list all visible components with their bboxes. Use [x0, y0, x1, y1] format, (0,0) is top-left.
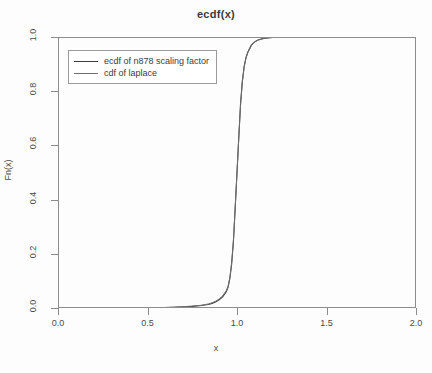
legend-item-label: ecdf of n878 scaling factor — [104, 56, 209, 67]
chart-title: ecdf(x) — [0, 8, 432, 20]
x-tick-label: 0.5 — [131, 318, 165, 328]
y-tick-label-text: 0.6 — [28, 130, 38, 156]
legend-item-laplace: cdf of laplace — [74, 67, 209, 79]
y-axis-label: Fn(x) — [0, 165, 38, 179]
y-tick-label-text: 0.2 — [28, 239, 38, 265]
x-tick-label: 0.0 — [41, 318, 75, 328]
x-tick-mark — [327, 308, 328, 315]
y-tick-mark — [51, 145, 58, 146]
x-tick-label: 1.0 — [220, 318, 254, 328]
legend-item-ecdf: ecdf of n878 scaling factor — [74, 55, 209, 67]
y-tick-label: 0.6 — [20, 138, 46, 152]
y-tick-label: 0.4 — [20, 193, 46, 207]
legend-line-icon — [74, 68, 98, 78]
y-tick-mark — [51, 308, 58, 309]
y-tick-mark — [51, 37, 58, 38]
y-tick-label: 0.0 — [20, 301, 46, 315]
x-tick-mark — [416, 308, 417, 315]
y-tick-label: 0.8 — [20, 84, 46, 98]
legend-item-label: cdf of laplace — [104, 68, 157, 79]
y-tick-label-text: 0.8 — [28, 76, 38, 102]
x-axis-label: x — [0, 343, 432, 353]
y-tick-label-text: 0.4 — [28, 185, 38, 211]
y-tick-mark — [51, 200, 58, 201]
y-tick-label-text: 0.0 — [28, 293, 38, 319]
x-tick-mark — [58, 308, 59, 315]
legend: ecdf of n878 scaling factor cdf of lapla… — [68, 50, 217, 84]
y-axis-label-text: Fn(x) — [3, 140, 13, 200]
legend-line-icon — [74, 56, 98, 66]
y-tick-mark — [51, 254, 58, 255]
x-tick-label: 2.0 — [399, 318, 432, 328]
x-tick-mark — [148, 308, 149, 315]
y-tick-label: 1.0 — [20, 30, 46, 44]
x-tick-mark — [237, 308, 238, 315]
x-tick-label: 1.5 — [310, 318, 344, 328]
chart-canvas: ecdf(x) 0.00.20.40.60.81.0 0.00.51.01.52… — [0, 0, 432, 373]
y-tick-label-text: 1.0 — [28, 22, 38, 48]
y-tick-mark — [51, 91, 58, 92]
y-tick-label: 0.2 — [20, 247, 46, 261]
